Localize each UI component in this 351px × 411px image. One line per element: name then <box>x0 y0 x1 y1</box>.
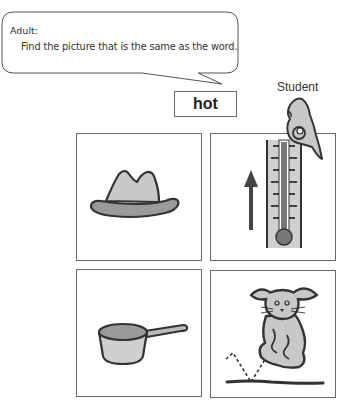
instruction-text: Find the picture that is the same as the… <box>21 41 237 52</box>
saucepan-icon <box>77 270 201 396</box>
hat-icon <box>77 134 201 260</box>
rabbit-hopping-icon <box>211 271 335 397</box>
up-arrow-icon <box>244 170 258 230</box>
pointing-hand-icon <box>278 95 328 163</box>
target-word: hot <box>193 95 218 113</box>
picture-card-saucepan[interactable] <box>76 269 202 397</box>
student-label: Student <box>277 80 318 94</box>
target-word-card: hot <box>174 91 237 117</box>
picture-card-hat[interactable] <box>76 133 202 261</box>
speaker-label: Adult: <box>10 25 38 36</box>
picture-card-rabbit[interactable] <box>210 270 336 398</box>
